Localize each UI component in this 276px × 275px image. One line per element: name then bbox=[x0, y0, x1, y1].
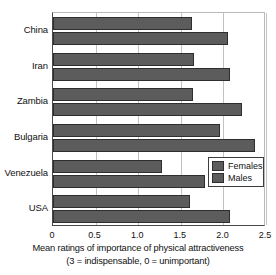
bar-iran-females bbox=[53, 53, 194, 66]
legend: Females Males bbox=[208, 157, 264, 187]
category-label-china: China bbox=[24, 25, 48, 35]
legend-label-males: Males bbox=[228, 173, 252, 183]
x-tick-label: 2.0 bbox=[216, 230, 229, 240]
x-tick-label: 1.5 bbox=[174, 230, 187, 240]
x-tick-label: 2.5 bbox=[259, 230, 272, 240]
legend-item-females: Females bbox=[212, 160, 261, 172]
x-tick-label: 0 bbox=[49, 230, 54, 240]
bar-venezuela-males bbox=[53, 175, 205, 188]
category-label-iran: Iran bbox=[32, 61, 48, 71]
bar-usa-females bbox=[53, 195, 190, 208]
bar-china-females bbox=[53, 17, 192, 30]
bar-venezuela-females bbox=[53, 160, 162, 173]
x-axis-title-note: (3 = indispensable, 0 = unimportant) bbox=[0, 256, 276, 268]
legend-label-females: Females bbox=[228, 161, 263, 171]
bars-layer bbox=[53, 13, 264, 225]
bar-group bbox=[53, 53, 264, 81]
bar-group bbox=[53, 88, 264, 116]
category-label-zambia: Zambia bbox=[17, 96, 48, 106]
bar-group bbox=[53, 195, 264, 223]
legend-swatch-females bbox=[212, 161, 224, 171]
category-label-usa: USA bbox=[29, 203, 48, 213]
plot-area bbox=[52, 12, 265, 226]
bar-group bbox=[53, 124, 264, 152]
bar-zambia-males bbox=[53, 103, 242, 116]
bar-iran-males bbox=[53, 68, 230, 81]
bar-bulgaria-females bbox=[53, 124, 220, 137]
x-axis-title: Mean ratings of importance of physical a… bbox=[0, 243, 276, 255]
legend-item-males: Males bbox=[212, 172, 261, 184]
category-label-venezuela: Venezuela bbox=[5, 168, 48, 178]
bar-group bbox=[53, 17, 264, 45]
legend-swatch-males bbox=[212, 173, 224, 183]
category-label-bulgaria: Bulgaria bbox=[14, 132, 48, 142]
x-tick-label: 0.5 bbox=[88, 230, 101, 240]
bar-china-males bbox=[53, 32, 228, 45]
bar-zambia-females bbox=[53, 88, 193, 101]
bar-bulgaria-males bbox=[53, 139, 255, 152]
gridline bbox=[266, 13, 267, 225]
x-tick-label: 1.0 bbox=[131, 230, 144, 240]
bar-usa-males bbox=[53, 210, 230, 223]
bar-chart: ChinaIranZambiaBulgariaVenezuelaUSA 00.5… bbox=[0, 0, 276, 275]
